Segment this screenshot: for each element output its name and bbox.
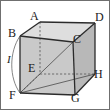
geometry-figure: A B C D E F G H I	[0, 0, 110, 110]
vertex-label-F: F	[9, 89, 16, 101]
vertex-label-H: H	[94, 68, 103, 80]
vertex-label-A: A	[30, 10, 39, 22]
vertex-label-C: C	[73, 33, 81, 45]
cube-diagram-canvas	[0, 0, 110, 110]
arc-length-label: I	[7, 53, 11, 65]
vertex-label-B: B	[8, 27, 16, 39]
vertex-label-G: G	[71, 92, 80, 104]
vertex-label-D: D	[95, 11, 104, 23]
vertex-label-E: E	[28, 62, 35, 74]
